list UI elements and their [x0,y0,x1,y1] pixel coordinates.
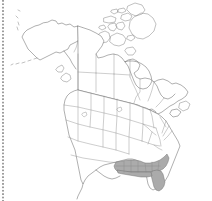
baja-california [77,184,83,199]
range-map-figure [0,0,212,201]
nova-scotia [170,109,181,117]
newfoundland-island [179,101,190,111]
haida-gwaii [56,65,64,72]
devon-island [121,13,132,21]
alaska-panhandle [64,51,76,69]
dotted-scan-margin [2,0,4,201]
region-alaska [11,10,86,69]
aleutian-islands [11,58,37,65]
region-canadian-arctic [98,3,156,55]
melville-island [104,16,116,23]
north-america-map [0,0,212,201]
bering-islets [16,10,20,30]
alaska-mainland [22,20,86,60]
texas-gulf-coast [96,170,120,179]
southampton-island [125,47,136,55]
vancouver-island [61,73,71,82]
prince-of-wales-island [108,23,117,31]
somerset-island [116,22,125,30]
victoria-island [110,33,126,46]
